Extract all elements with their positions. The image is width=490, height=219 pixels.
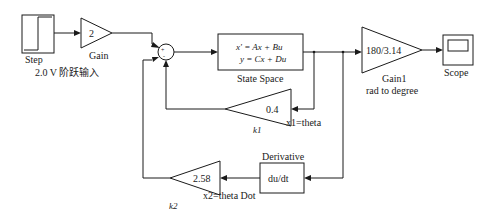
k2-label: k2 [169,201,178,211]
arrow-icon [152,57,159,62]
state-space-block[interactable] [218,34,303,70]
gain1-label: Gain1 [382,73,406,84]
step-caption: 2.0 V 阶跃输入 [35,66,99,78]
gain1-sublabel: rad to degree [366,85,419,96]
scope-label: Scope [444,67,469,78]
step-block[interactable] [22,15,54,53]
gain-block[interactable] [81,18,112,48]
x1-signal-label: x1=theta [286,117,322,128]
scope-block[interactable] [443,35,473,65]
state-space-eq1: x' = Ax + Bu [235,42,283,52]
step-label: Step [25,54,43,65]
wire-k1-sum [166,67,225,109]
wire-gain-sum [112,33,156,46]
arrow-icon [74,30,81,36]
arrow-icon [355,49,362,55]
arrow-icon [304,175,311,181]
k1-block[interactable] [225,89,291,126]
derivative-expr: du/dt [268,173,289,184]
gain-value: 2 [89,28,94,39]
state-space-label: State Space [237,73,284,84]
arrow-icon [211,49,218,55]
k2-value: 2.58 [193,173,211,184]
x2-signal-label: x2=theta Dot [203,190,256,201]
arrow-icon [291,106,298,112]
sum-minus: - [163,53,165,59]
k1-value: 0.4 [266,104,279,115]
arrow-icon [163,60,169,67]
gain-label: Gain [89,50,108,61]
arrow-icon [436,47,443,53]
wire-x1-derivative [310,52,343,178]
state-space-eq2: y = Cx + Du [239,54,287,64]
arrow-icon [220,175,227,181]
gain1-value: 180/3.14 [366,45,401,56]
k1-label: k1 [253,125,262,135]
derivative-title: Derivative [262,151,305,162]
